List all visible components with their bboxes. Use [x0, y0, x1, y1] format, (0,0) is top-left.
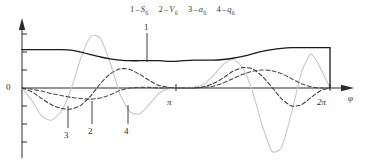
plot-area	[0, 0, 365, 163]
x-tick-label-pi: π	[167, 97, 172, 107]
legend-index-2: 2	[159, 4, 163, 14]
legend-subscript-4: б	[232, 10, 235, 16]
curve-label-1: 1	[144, 22, 149, 32]
legend-index-3: 3	[188, 4, 192, 14]
legend-subscript-2: б	[175, 10, 178, 16]
legend-item-3: 3 – aб	[188, 4, 206, 16]
legend-dash-2: –	[164, 4, 168, 14]
legend-dash-3: –	[193, 4, 197, 14]
curve-label-4: 4	[124, 126, 129, 136]
x-tick-label-2pi: 2π	[317, 97, 326, 107]
curve-label-3: 3	[64, 130, 69, 140]
legend-index-1: 1	[130, 4, 134, 14]
legend-item-1: 1 – Sб	[130, 4, 148, 16]
x-axis-label: φ	[348, 93, 353, 103]
y-axis-arrowhead	[19, 18, 25, 30]
legend: 1 – Sб2 – Vб3 – aб4 – qб	[0, 4, 365, 16]
legend-dash-1: –	[135, 4, 139, 14]
y-axis-zero-label: 0	[6, 82, 11, 92]
legend-index-4: 4	[216, 4, 220, 14]
legend-item-2: 2 – Vб	[159, 4, 178, 16]
legend-subscript-3: б	[203, 10, 206, 16]
legend-item-4: 4 – qб	[216, 4, 234, 16]
legend-dash-4: –	[222, 4, 226, 14]
figure-container: 1 – Sб2 – Vб3 – aб4 – qб 0 π 2π φ 1 2 3 …	[0, 0, 365, 163]
legend-subscript-1: б	[145, 10, 148, 16]
curve-label-2: 2	[88, 126, 93, 136]
x-axis-arrowhead	[341, 85, 354, 91]
curve-1	[22, 48, 330, 62]
